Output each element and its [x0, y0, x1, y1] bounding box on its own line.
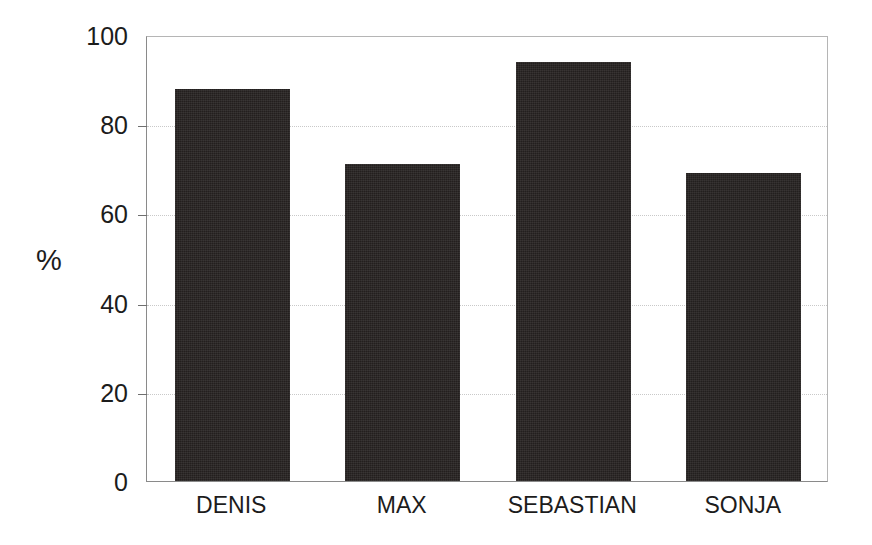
x-label-max: MAX: [377, 492, 427, 519]
bar-max: [345, 164, 460, 481]
plot-area: [146, 36, 828, 482]
x-label-sonja: SONJA: [704, 492, 781, 519]
y-tick-40: [138, 305, 147, 306]
y-axis-title: %: [36, 244, 62, 277]
y-tick-20: [138, 394, 147, 395]
y-tick-label-100: 100: [0, 22, 128, 51]
bar-chart: % 020406080100 DENISMAXSEBASTIANSONJA: [0, 0, 872, 545]
x-label-sebastian: SEBASTIAN: [508, 492, 637, 519]
bar-denis: [175, 89, 290, 481]
y-tick-label-80: 80: [0, 111, 128, 140]
y-tick-60: [138, 215, 147, 216]
y-tick-label-20: 20: [0, 378, 128, 407]
bar-sonja: [686, 173, 801, 481]
y-tick-80: [138, 126, 147, 127]
y-tick-label-0: 0: [0, 468, 128, 497]
y-tick-label-60: 60: [0, 200, 128, 229]
x-label-denis: DENIS: [196, 492, 266, 519]
y-tick-label-40: 40: [0, 289, 128, 318]
bar-sebastian: [516, 62, 631, 481]
